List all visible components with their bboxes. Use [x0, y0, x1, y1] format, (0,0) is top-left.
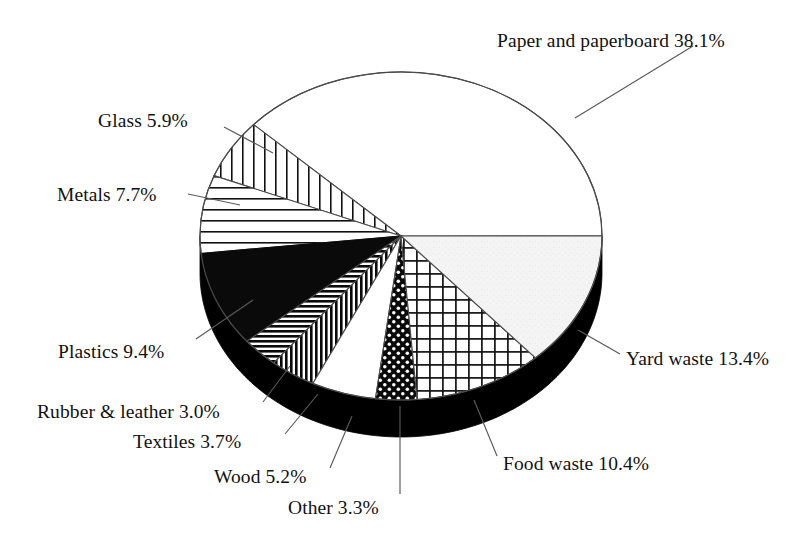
slice-label-metals: Metals 7.7% — [57, 184, 157, 205]
slice-label-yard-waste: Yard waste 13.4% — [626, 348, 769, 369]
slice-label-paper: Paper and paperboard 38.1% — [497, 30, 725, 51]
slice-label-glass: Glass 5.9% — [98, 110, 188, 131]
pie-chart-svg — [0, 0, 812, 548]
leader-paper — [575, 46, 693, 118]
leader-yard — [578, 330, 620, 354]
slice-label-textiles: Textiles 3.7% — [133, 431, 241, 452]
slice-label-food-waste: Food waste 10.4% — [503, 453, 649, 474]
slice-label-plastics: Plastics 9.4% — [58, 341, 164, 362]
slice-label-other: Other 3.3% — [288, 497, 379, 518]
pie-slices — [200, 72, 602, 400]
slice-label-rubber-leather: Rubber & leather 3.0% — [37, 401, 220, 422]
slice-label-wood: Wood 5.2% — [214, 466, 307, 487]
pie-chart-figure: Paper and paperboard 38.1% Glass 5.9% Me… — [0, 0, 812, 548]
